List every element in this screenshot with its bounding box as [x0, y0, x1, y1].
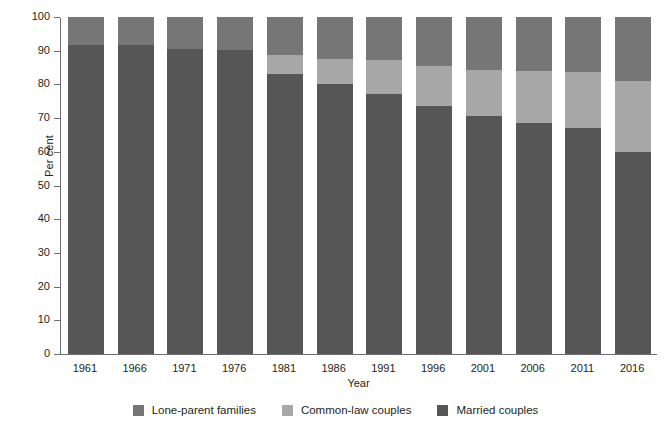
bar-segment[interactable] [317, 59, 353, 83]
legend-item[interactable]: Lone-parent families [133, 404, 256, 416]
x-axis-tick-label: 2006 [508, 362, 558, 374]
y-axis-tick-label: 10 [38, 313, 50, 325]
bar-segment[interactable] [466, 116, 502, 354]
bar-segment[interactable] [516, 17, 552, 71]
y-axis-tick-label: 50 [38, 179, 50, 191]
bar-segment[interactable] [366, 60, 402, 93]
bar-segment[interactable] [516, 71, 552, 123]
y-axis-tick: 80 [54, 84, 60, 85]
y-axis-tick-label: 60 [38, 145, 50, 157]
bar-segment[interactable] [366, 94, 402, 354]
y-axis-tick: 0 [54, 354, 60, 355]
y-axis-tick: 40 [54, 219, 60, 220]
y-axis-tick-label: 80 [38, 77, 50, 89]
legend-item[interactable]: Common-law couples [282, 404, 412, 416]
y-axis-tick-label: 40 [38, 212, 50, 224]
bar-segment[interactable] [68, 17, 104, 45]
bar-segment[interactable] [516, 123, 552, 354]
y-axis-tick-label: 20 [38, 280, 50, 292]
bar-group[interactable] [118, 18, 154, 354]
bar-group[interactable] [317, 18, 353, 354]
y-axis-tick: 60 [54, 152, 60, 153]
legend-swatch-icon [282, 405, 293, 416]
bar-group[interactable] [516, 18, 552, 354]
bar-segment[interactable] [118, 17, 154, 45]
bar-segment[interactable] [416, 66, 452, 105]
bar-segment[interactable] [217, 17, 253, 50]
legend-label: Lone-parent families [152, 404, 256, 416]
x-axis-tick-label: 2001 [458, 362, 508, 374]
stacked-bar-chart: Per cent 0102030405060708090100 19611966… [0, 0, 671, 437]
y-axis-tick: 100 [54, 17, 60, 18]
y-axis-tick-label: 0 [44, 347, 50, 359]
bar-group[interactable] [565, 18, 601, 354]
y-axis-tick: 50 [54, 186, 60, 187]
bar-segment[interactable] [416, 17, 452, 66]
x-axis-tick-label: 1986 [309, 362, 359, 374]
bar-segment[interactable] [267, 74, 303, 354]
bar-group[interactable] [615, 18, 651, 354]
bar-segment[interactable] [366, 17, 402, 60]
bar-segment[interactable] [317, 17, 353, 59]
bar-segment[interactable] [167, 49, 203, 354]
bar-segment[interactable] [615, 81, 651, 152]
y-axis-tick-label: 90 [38, 44, 50, 56]
bar-segment[interactable] [267, 17, 303, 55]
x-axis-tick-label: 1966 [110, 362, 160, 374]
bar-segment[interactable] [615, 17, 651, 81]
bar-segment[interactable] [317, 84, 353, 354]
bar-group[interactable] [416, 18, 452, 354]
bar-segment[interactable] [267, 55, 303, 74]
bar-group[interactable] [217, 18, 253, 354]
y-axis-tick: 90 [54, 51, 60, 52]
x-axis-tick-label: 1976 [209, 362, 259, 374]
bars-layer [61, 18, 657, 354]
legend-item[interactable]: Married couples [437, 404, 538, 416]
bar-group[interactable] [68, 18, 104, 354]
bar-segment[interactable] [217, 50, 253, 354]
plot-area: 0102030405060708090100 19611966197119761… [60, 18, 657, 355]
bar-group[interactable] [466, 18, 502, 354]
bar-group[interactable] [167, 18, 203, 354]
y-axis-tick-label: 100 [32, 10, 50, 22]
bar-segment[interactable] [416, 106, 452, 354]
bar-segment[interactable] [565, 128, 601, 354]
y-axis-tick: 20 [54, 287, 60, 288]
bar-segment[interactable] [466, 70, 502, 117]
y-axis-tick: 70 [54, 118, 60, 119]
bar-segment[interactable] [466, 17, 502, 70]
x-axis-tick-label: 2016 [607, 362, 657, 374]
x-axis-tick-label: 1991 [359, 362, 409, 374]
x-axis-tick-label: 1981 [259, 362, 309, 374]
x-axis-line [60, 354, 657, 355]
x-axis-title: Year [60, 377, 657, 389]
bar-segment[interactable] [615, 152, 651, 354]
x-axis-tick-label: 1996 [408, 362, 458, 374]
x-axis-tick-label: 1961 [60, 362, 110, 374]
bar-segment[interactable] [68, 45, 104, 354]
legend-label: Common-law couples [301, 404, 412, 416]
bar-group[interactable] [267, 18, 303, 354]
y-axis-tick: 30 [54, 253, 60, 254]
bar-segment[interactable] [167, 17, 203, 49]
bar-group[interactable] [366, 18, 402, 354]
bar-segment[interactable] [118, 45, 154, 354]
bar-segment[interactable] [565, 17, 601, 72]
legend-label: Married couples [456, 404, 538, 416]
y-axis-tick-label: 70 [38, 111, 50, 123]
x-axis-tick-label: 1971 [160, 362, 210, 374]
y-axis-tick: 10 [54, 320, 60, 321]
legend-swatch-icon [133, 405, 144, 416]
chart-legend: Lone-parent familiesCommon-law couplesMa… [0, 404, 671, 416]
x-axis-tick-label: 2011 [558, 362, 608, 374]
legend-swatch-icon [437, 405, 448, 416]
bar-segment[interactable] [565, 72, 601, 128]
y-axis-tick-label: 30 [38, 246, 50, 258]
